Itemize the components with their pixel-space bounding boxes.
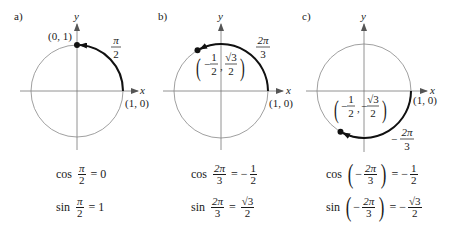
equation-cos-a: cos π2 = 0 xyxy=(56,163,106,186)
panel-b-label: b) xyxy=(158,10,168,23)
svg-text:1: 1 xyxy=(211,51,217,63)
equation-cos-c: cos ( − 2π3 ) = − 12 xyxy=(326,160,420,188)
y-axis-label: y xyxy=(73,10,79,22)
svg-text:2: 2 xyxy=(348,107,354,119)
x-axis-label: x xyxy=(285,84,291,96)
equation-sin-b: sin 2π3 = √32 xyxy=(191,196,256,219)
svg-text:2: 2 xyxy=(228,65,234,77)
svg-text:2: 2 xyxy=(211,65,217,77)
start-point-label: (1, 0) xyxy=(413,94,437,107)
svg-text:,: , xyxy=(220,60,223,72)
arc-label: − 2π 3 xyxy=(391,126,414,152)
x-axis-label: x xyxy=(139,84,145,96)
equation-cos-b: cos 2π3 = − 12 xyxy=(191,163,259,186)
start-point-label: (1, 0) xyxy=(269,97,293,110)
svg-text:3: 3 xyxy=(404,140,410,152)
panel-a-label: a) xyxy=(14,10,23,23)
arc-label-den: 2 xyxy=(113,48,119,60)
terminal-point-label: (0, 1) xyxy=(48,30,72,43)
arc-label-den: 3 xyxy=(260,48,266,60)
panel-b: b) x y (1, 0) 2π 3 ( − 1 2 , √3 2 ) xyxy=(158,10,293,150)
y-axis-label: y xyxy=(360,10,366,22)
panel-c-label: c) xyxy=(302,10,311,23)
terminal-point xyxy=(74,42,80,48)
svg-text:2π: 2π xyxy=(401,126,413,138)
panel-a: a) x y (0, 1) (1, 0) π 2 xyxy=(14,10,149,150)
svg-text:√3: √3 xyxy=(367,93,379,105)
start-point-label: (1, 0) xyxy=(125,97,149,110)
arc-label-num: 2π xyxy=(257,34,269,46)
svg-text:,: , xyxy=(357,102,360,114)
svg-text:2: 2 xyxy=(370,107,376,119)
equation-sin-a: sin π2 = 1 xyxy=(56,196,104,219)
svg-text:1: 1 xyxy=(348,93,354,105)
y-axis-label: y xyxy=(217,10,223,22)
svg-text:√3: √3 xyxy=(225,51,237,63)
svg-text:(: ( xyxy=(334,94,339,124)
terminal-point xyxy=(338,129,344,135)
result: 0 xyxy=(100,167,106,182)
arc-label-num: π xyxy=(113,34,119,46)
panel-c: c) x y (1, 0) − 2π 3 ( − 1 2 , − √3 2 ) xyxy=(302,10,437,152)
svg-text:): ) xyxy=(240,52,245,82)
svg-text:−: − xyxy=(341,100,347,112)
terminal-point-label: ( − 1 2 , √3 2 ) xyxy=(196,51,245,82)
svg-text:−: − xyxy=(204,58,210,70)
svg-text:): ) xyxy=(382,94,387,124)
svg-text:−: − xyxy=(391,133,397,145)
equation-sin-c: sin ( − 2π3 ) = − √32 xyxy=(326,193,424,221)
svg-text:(: ( xyxy=(196,52,201,82)
terminal-point-label: ( − 1 2 , − √3 2 ) xyxy=(334,93,387,124)
result: 1 xyxy=(98,200,104,215)
